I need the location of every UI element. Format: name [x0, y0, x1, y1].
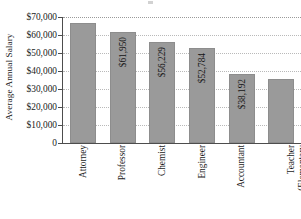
y-tick-mark [58, 89, 62, 90]
bar-series: $61,950$56,229$52,784$38,192 [63, 17, 301, 143]
bar: $38,192 [229, 74, 255, 143]
bar [268, 79, 294, 143]
x-category-label: Professor [117, 145, 128, 219]
y-tick-label: $50,000 [27, 48, 57, 58]
y-tick-label: $60,000 [27, 30, 57, 40]
artifact-speck [148, 1, 153, 4]
bar-value-label: $61,950 [118, 37, 128, 67]
y-tick-label: $10,000 [27, 120, 57, 130]
x-axis-category-labels: AttorneyProfessorChemistEngineerAccounta… [63, 145, 301, 219]
bar-value-label: $38,192 [237, 79, 247, 109]
y-tick-mark [58, 143, 62, 144]
bar: $61,950 [110, 32, 136, 144]
x-category-label: Teacher(Elementaryand Secondary) [286, 145, 301, 219]
y-tick-label: $70,000 [27, 12, 57, 22]
x-category-label: Accountant [236, 145, 247, 219]
x-category-label: Engineer [197, 145, 208, 219]
bar-chart: Average Annual Salary 0$10,000$20,000$30… [0, 0, 301, 219]
y-tick-mark [58, 35, 62, 36]
x-category-label: Attorney [78, 145, 89, 219]
y-tick-mark [58, 71, 62, 72]
bar: $52,784 [189, 48, 215, 143]
y-tick-label: $20,000 [27, 102, 57, 112]
bar-value-label: $56,229 [157, 47, 167, 77]
bar-value-label: $52,784 [197, 53, 207, 83]
y-tick-label: $40,000 [27, 66, 57, 76]
bar: $56,229 [149, 42, 175, 143]
y-tick-mark [58, 125, 62, 126]
y-tick-mark [58, 53, 62, 54]
y-tick-label: $30,000 [27, 84, 57, 94]
y-tick-mark [58, 107, 62, 108]
x-category-label: Chemist [157, 145, 168, 219]
plot-area: $61,950$56,229$52,784$38,192 [62, 17, 301, 143]
x-axis-line [62, 143, 301, 144]
y-tick-mark [58, 17, 62, 18]
bar [70, 23, 96, 143]
y-axis-tick-labels: 0$10,000$20,000$30,000$40,000$50,000$60,… [0, 0, 62, 219]
y-tick-label: 0 [52, 138, 57, 148]
